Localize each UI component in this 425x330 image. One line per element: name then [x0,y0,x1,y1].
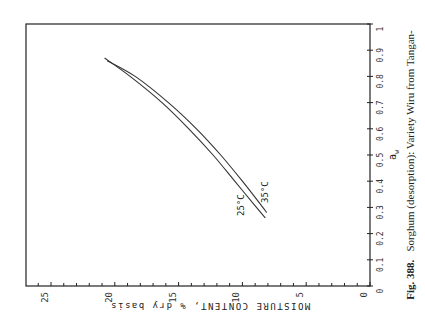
aw-tick-label: 0.7 [376,100,385,115]
moisture-isotherm-chart: 00.10.20.30.40.50.60.70.80.91 0510152025… [0,0,425,330]
moisture-tick-label: 5 [295,292,305,297]
aw-tick-label: 0.6 [376,126,385,141]
aw-tick-label: 0.1 [376,257,385,272]
figure-number: Fig. 388. [404,260,416,300]
aw-tick-label: 0 [376,288,385,293]
aw-tick-label: 0.3 [376,205,385,220]
series-lines [105,58,267,218]
aw-tick-label: 1 [376,26,385,31]
moisture-tick-label: 0 [359,292,369,297]
aw-tick-label: 0.2 [376,231,385,246]
aw-tick-label: 0.4 [376,179,385,194]
aw-axis-label: aw [387,149,401,160]
series-line-35c [107,61,267,213]
aw-tick-label: 0.9 [376,48,385,63]
figure-caption: Fig. 388. Sorghum (desorption): Variety … [404,30,416,300]
curve-label-35: 35°C [260,181,270,203]
aw-tick-label: 0.8 [376,74,385,89]
moisture-axis-label: MOISTURE CONTENT, % dry basis [110,301,311,311]
curve-label-25: 25°C [236,194,246,216]
series-line-25c [105,58,266,218]
aw-tick-label: 0.5 [376,153,385,168]
moisture-tick-label: 25 [40,292,50,303]
plot-frame [26,24,370,286]
figure-caption-text: Sorghum (desorption): Variety Wiru from … [404,30,416,251]
moisture-axis-ticks: 0510152025 [38,282,370,303]
